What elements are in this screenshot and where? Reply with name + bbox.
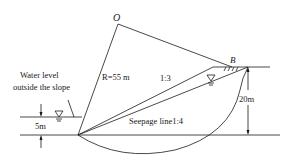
slope-ratio-label: 1:3 [160, 73, 171, 83]
seepage-label: Seepage line1:4 [129, 116, 184, 126]
hatch-b [224, 67, 238, 71]
center-label: O [113, 12, 120, 23]
water-level-label-2: outside the slope [13, 82, 70, 92]
water-symbol-outside [55, 111, 63, 121]
water-leader [68, 100, 74, 117]
water-symbol-seepage [207, 75, 215, 85]
radius-label: R=55 m [102, 72, 130, 82]
depth-label: 5m [35, 121, 46, 131]
water-level-label-1: Water level [20, 70, 59, 80]
radius-line-b [118, 24, 232, 67]
point-b-label: B [230, 55, 236, 65]
height-label: 20m [239, 94, 255, 104]
slope-diagram: O B R=55 m 1:3 Seepage line1:4 Water lev… [0, 0, 287, 164]
